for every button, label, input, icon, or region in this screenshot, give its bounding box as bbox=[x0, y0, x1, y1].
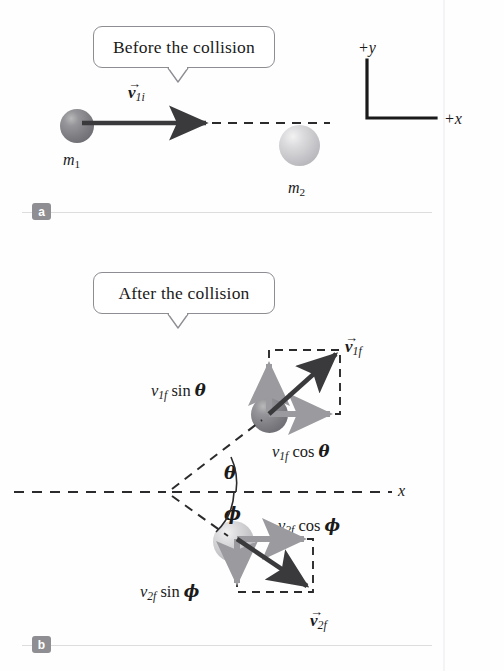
dashed-deflection-line-upper bbox=[172, 420, 262, 489]
callout-tail-after bbox=[168, 314, 188, 328]
dashed-deflection-line-lower bbox=[172, 496, 228, 536]
angle-arc-phi bbox=[216, 492, 234, 532]
arrow-v2f-resultant bbox=[237, 539, 307, 586]
angle-arc-theta bbox=[231, 457, 237, 492]
physics-diagram-figure: Before the collision → v1i m1 m2 +y +x a… bbox=[0, 0, 504, 671]
diagram-vector-layer bbox=[0, 0, 504, 671]
arrow-v1f-resultant bbox=[269, 354, 336, 414]
coordinate-axes bbox=[367, 60, 436, 118]
callout-tail-before bbox=[168, 68, 188, 82]
